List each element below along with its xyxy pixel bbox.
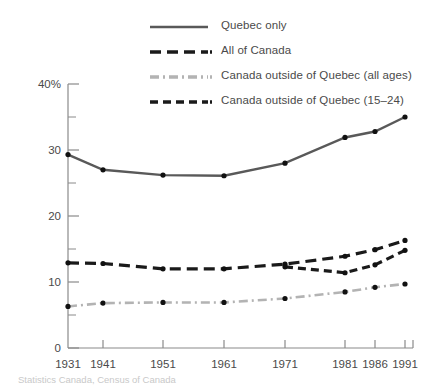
data-point bbox=[100, 301, 105, 306]
y-tick-label: 0 bbox=[55, 342, 61, 354]
data-point bbox=[402, 238, 407, 243]
x-tick-label: 1951 bbox=[150, 358, 176, 370]
source-note: Statistics Canada, Census of Canada bbox=[18, 374, 176, 385]
data-point bbox=[65, 304, 70, 309]
series-line-0 bbox=[68, 117, 405, 176]
chart-root: Quebec only All of Canada Canada outside… bbox=[0, 0, 428, 387]
series-line-1 bbox=[68, 240, 405, 268]
data-point bbox=[342, 254, 347, 259]
data-point bbox=[282, 296, 287, 301]
data-point bbox=[372, 129, 377, 134]
data-point bbox=[402, 281, 407, 286]
data-point bbox=[342, 289, 347, 294]
series-lines bbox=[65, 114, 407, 309]
data-point bbox=[282, 264, 287, 269]
data-point bbox=[160, 172, 165, 177]
data-point bbox=[100, 167, 105, 172]
data-point bbox=[221, 173, 226, 178]
data-point bbox=[402, 114, 407, 119]
data-point bbox=[160, 266, 165, 271]
data-point bbox=[372, 262, 377, 267]
tick-labels: 010203040%193119411951196119711981198619… bbox=[38, 78, 418, 370]
data-point bbox=[160, 300, 165, 305]
x-tick-label: 1986 bbox=[362, 358, 388, 370]
x-tick-label: 1981 bbox=[332, 358, 358, 370]
data-point bbox=[372, 285, 377, 290]
y-tick-label: 20 bbox=[48, 210, 61, 222]
data-point bbox=[65, 152, 70, 157]
data-point bbox=[100, 261, 105, 266]
series-line-2 bbox=[68, 284, 405, 306]
data-point bbox=[342, 135, 347, 140]
x-tick-label: 1991 bbox=[392, 358, 418, 370]
data-point bbox=[221, 266, 226, 271]
data-point bbox=[221, 300, 226, 305]
plot-area: 010203040%193119411951196119711981198619… bbox=[0, 0, 428, 387]
y-tick-label: 40% bbox=[38, 78, 61, 90]
y-tick-label: 10 bbox=[48, 276, 61, 288]
x-tick-label: 1961 bbox=[211, 358, 237, 370]
data-point bbox=[402, 248, 407, 253]
data-point bbox=[282, 161, 287, 166]
data-point bbox=[65, 260, 70, 265]
data-point bbox=[372, 247, 377, 252]
axes bbox=[68, 84, 413, 348]
data-point bbox=[342, 270, 347, 275]
x-tick-label: 1941 bbox=[90, 358, 116, 370]
x-tick-label: 1931 bbox=[55, 358, 81, 370]
y-tick-label: 30 bbox=[48, 144, 61, 156]
x-tick-label: 1971 bbox=[272, 358, 298, 370]
